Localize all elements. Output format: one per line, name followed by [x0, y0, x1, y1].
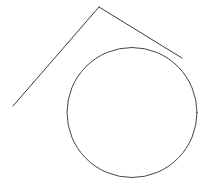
figure-background: [0, 0, 213, 193]
geometry-figure-canvas: Circle with tangent line A thin black ci…: [0, 0, 213, 193]
geometry-figure-svg: Circle with tangent line A thin black ci…: [0, 0, 213, 193]
